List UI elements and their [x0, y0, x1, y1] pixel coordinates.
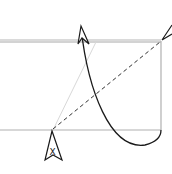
valley-fold-line: [53, 42, 160, 129]
fold-diagram: X: [0, 0, 172, 174]
arrowhead-icon: [78, 26, 89, 44]
corner-arrow-icon: [162, 25, 172, 40]
push-arrow-icon: X: [45, 131, 62, 160]
fold-arrow-icon: [81, 28, 161, 145]
crease-line: [53, 42, 96, 130]
push-symbol-label: X: [50, 147, 56, 157]
